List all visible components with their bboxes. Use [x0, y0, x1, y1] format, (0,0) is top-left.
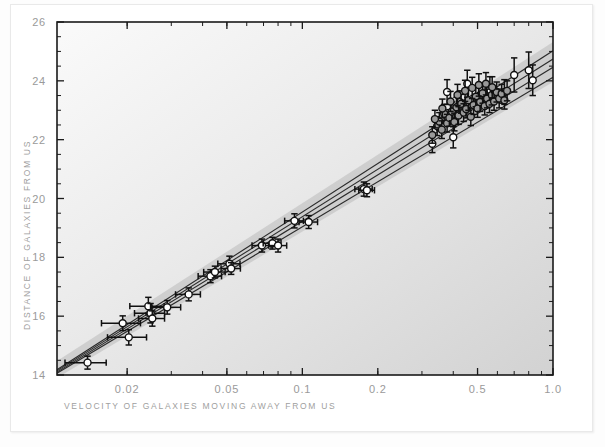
page-background: 0.020.050.10.20.51.0 14161820222426 VELO…	[0, 0, 605, 447]
data-point	[511, 71, 518, 78]
data-point	[529, 77, 536, 84]
y-tick-label: 22	[32, 134, 46, 146]
y-tick-label: 26	[32, 16, 46, 28]
data-point	[291, 217, 298, 224]
x-tick-labels: 0.020.050.10.20.51.0	[115, 383, 562, 395]
x-tick-label: 0.1	[293, 383, 311, 395]
x-tick-label: 1.0	[544, 383, 562, 395]
data-point	[525, 67, 532, 74]
data-point	[363, 187, 370, 194]
data-point	[164, 304, 171, 311]
y-tick-label: 20	[32, 193, 46, 205]
data-point	[475, 81, 482, 88]
data-point	[454, 91, 461, 98]
data-point	[305, 219, 312, 226]
y-tick-label: 24	[32, 75, 46, 87]
data-point	[489, 84, 496, 91]
y-tick-label: 16	[32, 310, 46, 322]
data-point	[119, 320, 126, 327]
data-point	[504, 87, 511, 94]
x-tick-label: 0.02	[115, 383, 140, 395]
data-point	[439, 105, 446, 112]
data-point	[450, 134, 457, 141]
y-tick-label: 14	[32, 369, 46, 381]
data-point	[125, 334, 132, 341]
data-point	[211, 269, 218, 276]
data-point	[431, 116, 438, 123]
y-tick-labels: 14161820222426	[32, 16, 46, 381]
data-point	[429, 131, 436, 138]
y-tick-label: 18	[32, 251, 46, 263]
data-point	[462, 87, 469, 94]
data-point	[469, 84, 476, 91]
data-point	[275, 242, 282, 249]
data-point	[84, 359, 91, 366]
data-point	[185, 291, 192, 298]
data-point	[447, 98, 454, 105]
x-axis-title: VELOCITY OF GALAXIES MOVING AWAY FROM US	[64, 401, 336, 411]
plot-area	[57, 22, 553, 378]
x-tick-label: 0.2	[369, 383, 387, 395]
y-axis-title: DISTANCE OF GALAXIES FROM US	[22, 140, 32, 330]
hubble-diagram-figure: 0.020.050.10.20.51.0 14161820222426 VELO…	[0, 0, 605, 447]
x-tick-label: 0.5	[469, 383, 487, 395]
data-point	[149, 315, 156, 322]
data-point	[228, 265, 235, 272]
x-tick-label: 0.05	[215, 383, 240, 395]
